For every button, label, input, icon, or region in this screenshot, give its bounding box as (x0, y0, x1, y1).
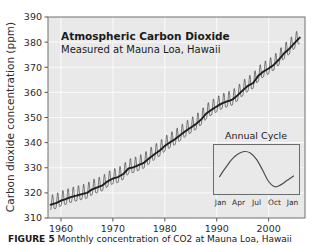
x-tick-label: 1960 (49, 223, 73, 234)
y-tick-label: 380 (24, 37, 42, 48)
inset-tick-label: Apr (232, 198, 246, 207)
figure-caption: FIGURE 5 Monthly concentration of CO2 at… (8, 234, 313, 244)
figure-caption-label: FIGURE 5 (8, 234, 55, 244)
figure-caption-body: Monthly concentration of CO2 at Mauna Lo… (58, 234, 292, 244)
y-tick-label: 350 (24, 112, 42, 123)
inset-frame (214, 145, 300, 195)
x-tick-label: 1970 (101, 223, 125, 234)
y-tick-label: 320 (24, 187, 42, 198)
inset-tick-label: Jan (286, 198, 299, 207)
y-tick-label: 390 (24, 11, 42, 22)
inset-tick-label: Jul (251, 198, 261, 207)
y-tick-label: 310 (24, 212, 42, 223)
co2-chart: 310320330340350360370380390 196019701980… (0, 0, 319, 245)
x-tick-label: 1990 (205, 223, 229, 234)
y-tick-label: 360 (24, 87, 42, 98)
inset-tick-label: Oct (268, 198, 281, 207)
inset-tick-label: Jan (214, 198, 227, 207)
chart-title: Atmospheric Carbon Dioxide (61, 30, 230, 42)
y-tick-label: 340 (24, 137, 42, 148)
chart-subtitle: Measured at Mauna Loa, Hawaii (61, 44, 221, 55)
y-axis-title: Carbon dioxide concentration (ppm) (4, 22, 16, 212)
x-tick-label: 2000 (257, 223, 281, 234)
figure-container: 310320330340350360370380390 196019701980… (0, 0, 319, 245)
y-tick-label: 370 (24, 62, 42, 73)
y-tick-label: 330 (24, 162, 42, 173)
inset-title: Annual Cycle (225, 130, 287, 141)
x-tick-label: 1980 (153, 223, 177, 234)
